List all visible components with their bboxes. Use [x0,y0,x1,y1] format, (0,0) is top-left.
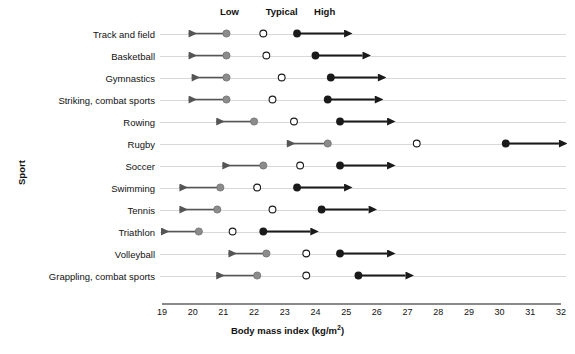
x-axis-title-text: Body mass index (kg/m [231,325,337,336]
category-label: Soccer [125,160,155,171]
category-label: Track and field [93,28,155,39]
markers-layer [0,0,575,354]
category-label: Tennis [128,204,155,215]
row-baseline [160,34,566,35]
row-baseline [160,122,566,123]
column-header-high: High [314,6,335,17]
category-label: Basketball [111,50,155,61]
row-baseline [160,276,566,277]
x-tick-label: 21 [218,307,228,317]
row-baseline [160,166,566,167]
x-tick-label: 27 [403,307,413,317]
x-tick-label: 26 [372,307,382,317]
category-label: Triathlon [118,226,155,237]
x-tick-label: 20 [188,307,198,317]
x-tick-label: 30 [495,307,505,317]
x-axis-title-tail: ) [341,325,344,336]
column-header-typical: Typical [266,6,298,17]
row-baseline [160,144,566,145]
category-label: Swimming [111,182,155,193]
x-tick-label: 25 [341,307,351,317]
row-baseline [160,100,566,101]
x-axis-title: Body mass index (kg/m2) [0,324,575,336]
x-tick-label: 22 [249,307,259,317]
row-baseline [160,78,566,79]
category-label: Volleyball [115,248,155,259]
x-axis-line [162,303,561,305]
bmi-by-sport-chart: Sport LowTypicalHigh Track and fieldBask… [0,0,575,354]
x-tick-label: 24 [310,307,320,317]
category-label: Grappling, combat sports [49,270,155,281]
y-axis-title: Sport [16,160,27,185]
category-label: Rowing [123,116,155,127]
row-baseline [160,254,566,255]
column-header-low: Low [220,6,239,17]
x-tick-label: 23 [280,307,290,317]
x-tick-label: 19 [157,307,167,317]
category-label: Gymnastics [105,72,155,83]
category-label: Striking, combat sports [58,94,155,105]
x-tick-label: 31 [525,307,535,317]
row-baseline [160,210,566,211]
x-tick-label: 29 [464,307,474,317]
x-tick-label: 28 [433,307,443,317]
row-baseline [160,188,566,189]
row-baseline [160,232,566,233]
category-label: Rugby [128,138,155,149]
x-tick-label: 32 [556,307,566,317]
row-baseline [160,56,566,57]
